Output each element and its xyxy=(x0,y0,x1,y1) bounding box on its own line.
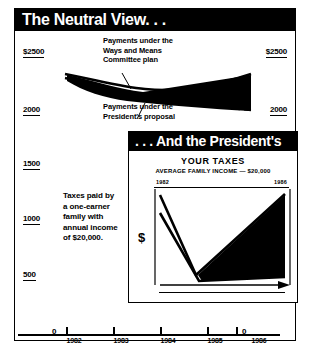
inset-chart-subtitle: AVERAGE FAMILY INCOME — $20,000 xyxy=(129,168,297,174)
annotation-pres-line-1: Payments under the xyxy=(103,102,175,112)
inset-x-end-label: 1986 xyxy=(274,179,287,185)
caption-taxes-paid: Taxes paid by a one-earner family with a… xyxy=(63,191,118,244)
x-axis-zero-right: 0 xyxy=(242,327,246,336)
x-tick-1985 xyxy=(207,327,209,335)
caption-line-4: annual income xyxy=(63,223,118,234)
annotation-ways-line-1: Payments under the xyxy=(103,36,173,46)
x-axis-line xyxy=(18,334,280,336)
presidents-panel: . . . And the President's YOUR TAXES AVE… xyxy=(128,131,298,303)
inset-y-axis-label: $ xyxy=(138,230,145,245)
annotation-pres-line-2: President's proposal xyxy=(103,112,175,122)
x-label-1984: 1984 xyxy=(161,337,176,344)
annotation-ways-and-means: Payments under the Ways and Means Commit… xyxy=(103,36,173,65)
inset-top-rule xyxy=(154,187,289,188)
x-axis-zero-left: 0 xyxy=(52,327,56,336)
x-label-1982: 1982 xyxy=(67,337,82,344)
x-label-1985: 1985 xyxy=(208,337,223,344)
annotation-presidents-proposal: Payments under the President's proposal xyxy=(103,102,175,121)
inset-x-axis-arrowhead xyxy=(278,281,290,289)
caption-line-5: of $20,000. xyxy=(63,233,118,244)
x-tick-1983 xyxy=(113,327,115,335)
inset-plot xyxy=(154,189,291,293)
inset-bottom-rule xyxy=(159,292,285,293)
annotation-ways-line-3: Committee plan xyxy=(103,55,173,65)
inset-wedge-fill xyxy=(198,195,285,281)
presidents-panel-header: . . . And the President's xyxy=(129,132,297,151)
x-axis: 0 0 1982 1983 1984 1985 1986 xyxy=(14,326,296,349)
inset-x-start-label: 1982 xyxy=(156,179,169,185)
x-tick-1982 xyxy=(66,327,68,335)
annotation-ways-line-2: Ways and Means xyxy=(103,46,173,56)
presidents-panel-title: . . . And the President's xyxy=(135,133,281,149)
neutral-view-title: The Neutral View. . . xyxy=(22,11,166,29)
neutral-view-header: The Neutral View. . . xyxy=(15,9,295,31)
caption-line-2: a one-earner xyxy=(63,202,118,213)
x-tick-1986 xyxy=(236,327,238,335)
x-tick-1984 xyxy=(160,327,162,335)
infographic-figure: The Neutral View. . . $2500 2000 1500 10… xyxy=(0,0,310,349)
x-label-1986: 1986 xyxy=(252,337,267,344)
inset-chart-title: YOUR TAXES xyxy=(129,156,297,166)
x-label-1983: 1983 xyxy=(114,337,129,344)
caption-line-1: Taxes paid by xyxy=(63,191,118,202)
caption-line-3: family with xyxy=(63,212,118,223)
